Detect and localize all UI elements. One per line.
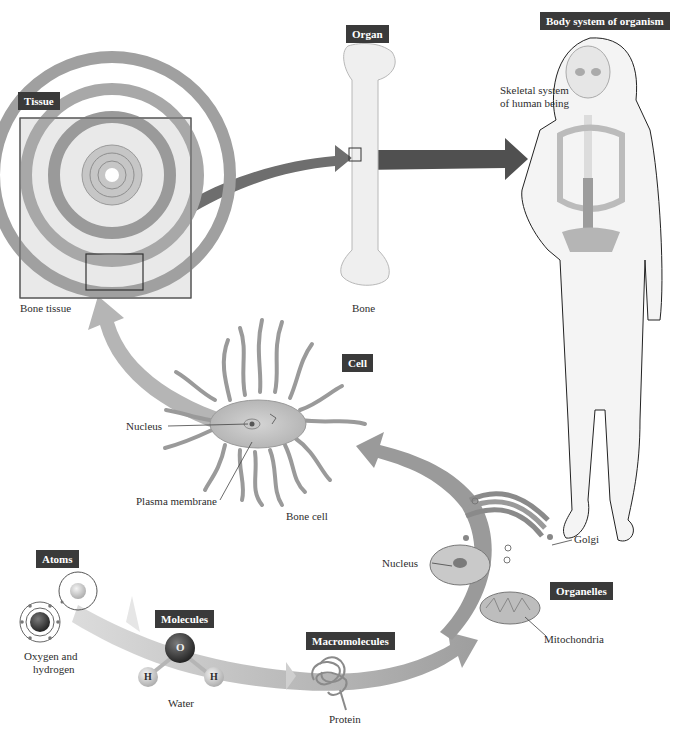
caption-skeletal-system-1: Skeletal system [500, 84, 569, 97]
tag-molecules: Molecules [155, 610, 214, 628]
tag-macromolecules: Macromolecules [306, 632, 395, 650]
caption-atoms-1: Oxygen and [24, 650, 77, 663]
mitochondria-illustration [480, 592, 540, 624]
label-plasma-membrane: Plasma membrane [136, 495, 217, 508]
caption-bone: Bone [352, 302, 375, 315]
label-golgi: Golgi [574, 533, 599, 546]
hydrogen-atom [59, 572, 97, 610]
organization-diagram: O H H Tissue Organ Body system of organi… [0, 0, 676, 733]
caption-bone-cell: Bone cell [286, 510, 328, 523]
tag-atoms: Atoms [36, 550, 79, 568]
oxygen-atom [20, 602, 60, 642]
caption-skeletal-system-2: of human being [500, 97, 569, 110]
label-cell-nucleus: Nucleus [126, 420, 162, 433]
caption-bone-tissue: Bone tissue [20, 302, 71, 315]
flow-arrow-lower [72, 596, 478, 691]
bone-cell-body [210, 400, 306, 448]
tag-organ: Organ [346, 25, 389, 43]
tag-tissue: Tissue [18, 92, 60, 110]
flow-arrow-organelles-to-cell [356, 432, 492, 640]
tag-body-system: Body system of organism [540, 12, 670, 30]
caption-atoms-2: hydrogen [33, 663, 75, 676]
tag-cell: Cell [342, 354, 373, 372]
label-mitochondria: Mitochondria [544, 633, 604, 646]
hydrogen-symbol-left: H [144, 670, 152, 683]
diagram-artwork [0, 0, 676, 733]
hydrogen-symbol-right: H [210, 670, 218, 683]
oxygen-symbol: O [176, 641, 185, 654]
organelle-nucleus [430, 545, 490, 585]
tag-organelles: Organelles [550, 582, 613, 600]
label-organelle-nucleus: Nucleus [382, 557, 418, 570]
skeleton-illustration [522, 38, 662, 541]
caption-water: Water [168, 697, 194, 710]
caption-protein: Protein [329, 713, 361, 726]
